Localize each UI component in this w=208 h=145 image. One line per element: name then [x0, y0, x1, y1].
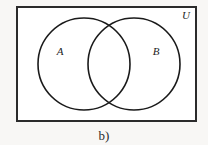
set-b-label: B [153, 45, 160, 57]
venn-diagram-canvas: U A B b) [0, 0, 208, 145]
set-a-label: A [56, 45, 64, 57]
figure-caption: b) [99, 128, 110, 143]
universal-set-label: U [182, 9, 191, 21]
venn-diagram-figure: U A B b) [0, 0, 208, 145]
